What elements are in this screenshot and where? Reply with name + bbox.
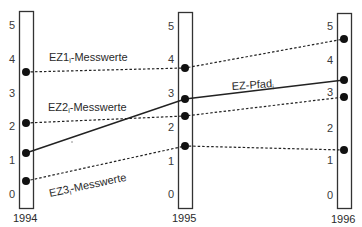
label-ez3-messwerte: EZ3i-Messwerte: [48, 171, 128, 200]
data-point: [22, 177, 30, 185]
tick-label: 0: [327, 189, 333, 201]
year-label-1995: 1995: [172, 212, 196, 224]
data-point: [22, 119, 30, 127]
tick-label: 1: [9, 154, 15, 166]
tick-label: 4: [327, 54, 333, 66]
tick-label: 2: [327, 122, 333, 134]
year-label-1996: 1996: [331, 213, 355, 225]
tick-label: 3: [9, 87, 15, 99]
data-point: [340, 35, 348, 43]
measurement-path-diagram: 0 1 2 3 4 5 1994 0 1 2 3 4 5 1995 0 1 2 …: [0, 0, 362, 227]
data-point: [181, 95, 189, 103]
data-point: [181, 142, 189, 150]
tick-label: 1: [327, 154, 333, 166]
data-point: [22, 149, 30, 157]
axis-1994: 0 1 2 3 4 5 1994: [9, 12, 37, 225]
tick-label: 0: [168, 188, 174, 200]
data-point: [181, 112, 189, 120]
tick-label: 4: [9, 53, 15, 65]
tick-label: 3: [327, 86, 333, 98]
label-ez2-messwerte: EZ2i-Messwerte: [48, 101, 127, 114]
tick-label: 5: [9, 19, 15, 31]
tick-label: 1: [168, 155, 174, 167]
tick-label: 4: [168, 53, 174, 65]
label-ez1-messwerte: EZ1i-Messwerte: [49, 51, 128, 64]
data-point: [181, 64, 189, 72]
data-point: [340, 146, 348, 154]
axis-bar-1995: [179, 13, 193, 209]
tick-label: 0: [9, 188, 15, 200]
data-point: [22, 68, 30, 76]
year-label-1994: 1994: [13, 212, 37, 224]
data-point: [340, 93, 348, 101]
tick-label: 2: [9, 120, 15, 132]
tick-label: 3: [168, 87, 174, 99]
tick-label: 5: [168, 20, 174, 32]
data-point: [340, 76, 348, 84]
axis-1996: 0 1 2 3 4 5 1996: [327, 14, 355, 226]
tick-label: 5: [327, 20, 333, 32]
tick-label: 2: [168, 121, 174, 133]
